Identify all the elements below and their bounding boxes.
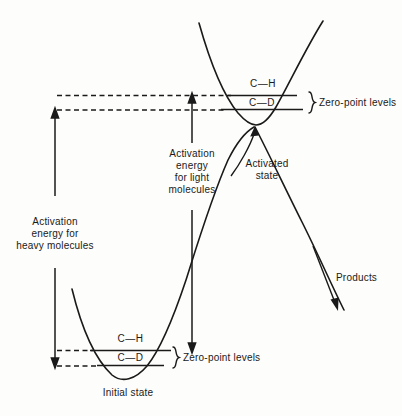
products-curve [255,127,344,310]
products-pointer-head [331,298,339,312]
label-upper-cd: C—D [221,97,303,109]
label-initial-state: Initial state [88,387,168,399]
label-activation-energy-light: Activation energy for light molecules [152,148,232,196]
label-lower-cd: C—D [97,352,164,364]
figure-canvas: C—H C—D C—H C—D Zero-point levels Zero-p… [0,0,402,416]
label-lower-ch: C—H [90,333,171,345]
label-activation-energy-heavy: Activation energy for heavy molecules [6,216,104,252]
brace-upper-zero-point [309,92,315,113]
label-zero-point-levels-lower: Zero-point levels [183,352,267,364]
brace-lower-zero-point [173,347,179,368]
label-activated-state: Activated state [228,158,306,182]
label-products: Products [336,272,396,284]
activation-energy-light-arrow [188,93,195,353]
products-pointer-arrow [313,246,334,300]
label-zero-point-levels-upper: Zero-point levels [319,97,402,109]
label-upper-ch: C—H [228,78,298,90]
